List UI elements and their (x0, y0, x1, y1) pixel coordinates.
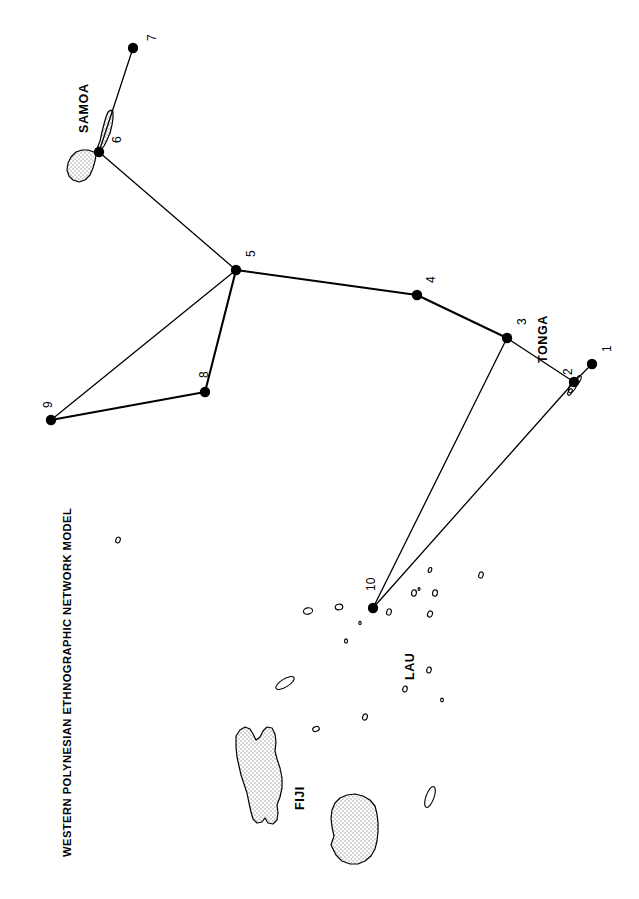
fiji-label: FIJI (294, 786, 307, 810)
lau-islet-01 (428, 567, 433, 573)
network-node-3[interactable] (502, 333, 512, 343)
network-edges-layer (51, 48, 592, 608)
node-label-7: 7 (146, 34, 158, 41)
lau-islet-12 (426, 667, 432, 674)
node-label-4: 4 (425, 276, 437, 283)
islands-layer (67, 110, 582, 864)
network-node-7[interactable] (128, 43, 138, 53)
network-node-2[interactable] (569, 377, 579, 387)
node-label-2: 2 (562, 368, 574, 375)
node-label-10: 10 (365, 578, 377, 591)
network-edge-4-3[interactable] (417, 295, 507, 338)
lau-islet-04 (411, 589, 417, 596)
node-label-8: 8 (198, 371, 210, 378)
lau-label: LAU (404, 653, 417, 681)
network-edge-8-9[interactable] (51, 392, 205, 420)
viti-levu-island (331, 794, 378, 864)
node-label-3: 3 (516, 318, 528, 325)
lau-islet-05 (432, 589, 438, 596)
lau-islet-03 (418, 588, 420, 591)
network-node-8[interactable] (200, 387, 210, 397)
tonga-label: TONGA (537, 315, 550, 363)
network-node-9[interactable] (46, 415, 56, 425)
lau-islet-11 (345, 639, 348, 643)
network-node-10[interactable] (368, 603, 378, 613)
map-svg (0, 0, 639, 899)
network-nodes-layer (46, 43, 597, 613)
node-label-1: 1 (601, 345, 613, 352)
lau-islet-09 (427, 610, 434, 618)
lau-islet-02 (478, 571, 484, 578)
vanua-levu-island (236, 727, 282, 824)
network-edge-5-4[interactable] (236, 270, 417, 295)
lau-islet-17 (115, 536, 121, 543)
network-edge-6-5[interactable] (99, 152, 236, 270)
figure-canvas: WESTERN POLYNESIAN ETHNOGRAPHIC NETWORK … (0, 0, 639, 899)
upolu-island (67, 150, 96, 182)
network-edge-3-10[interactable] (373, 338, 507, 608)
network-node-1[interactable] (587, 359, 597, 369)
lau-islet-10 (359, 621, 361, 624)
lau-islet-07 (303, 607, 313, 615)
page-title: WESTERN POLYNESIAN ETHNOGRAPHIC NETWORK … (62, 508, 73, 857)
network-node-5[interactable] (231, 265, 241, 275)
node-label-9: 9 (42, 401, 54, 408)
lau-islet-08 (386, 608, 392, 615)
network-node-6[interactable] (94, 147, 104, 157)
node-label-5: 5 (245, 250, 257, 257)
network-edge-2-10[interactable] (373, 382, 574, 608)
samoa-label: SAMOA (78, 83, 91, 133)
lau-islet-13 (402, 686, 408, 693)
node-label-6: 6 (111, 136, 123, 143)
lau-islet-15 (362, 713, 369, 721)
lau-islet-16 (312, 726, 320, 733)
fiji-islet-taveuni (274, 674, 296, 692)
lau-islet-14 (441, 698, 444, 702)
lau-islet-06 (335, 604, 343, 611)
network-edge-5-9[interactable] (51, 270, 236, 420)
fiji-islet-kadavu (422, 785, 437, 808)
network-node-4[interactable] (412, 290, 422, 300)
